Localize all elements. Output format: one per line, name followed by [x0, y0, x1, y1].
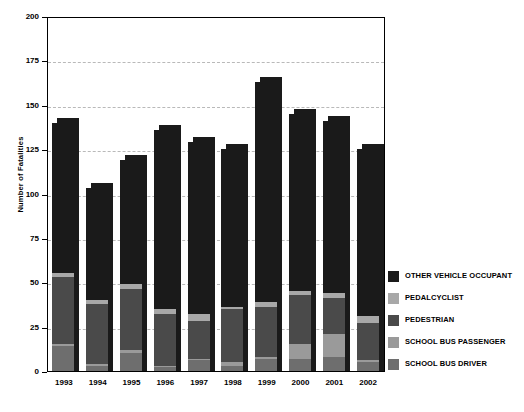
- legend-item: PEDALCYCLIST: [388, 293, 522, 304]
- bar-segment: [120, 160, 142, 284]
- legend-item: OTHER VEHICLE OCCUPANT: [388, 271, 522, 282]
- legend-label: SCHOOL BUS PASSENGER: [405, 337, 506, 347]
- legend-label: SCHOOL BUS DRIVER: [405, 359, 487, 369]
- bar-segment: [221, 366, 243, 371]
- legend-swatch: [388, 315, 399, 326]
- bar-group: [221, 18, 248, 371]
- bar-segment: [188, 321, 210, 358]
- bar-segment: [154, 130, 176, 309]
- bar-segment: [221, 309, 243, 362]
- bar-stack: [255, 82, 277, 371]
- bar-segment: [357, 323, 379, 360]
- bar-stack: [52, 123, 74, 371]
- bar-segment: [188, 142, 210, 314]
- bar-group: [323, 18, 350, 371]
- bar-segment: [120, 289, 142, 349]
- bar-segment: [289, 295, 311, 345]
- legend-swatch: [388, 271, 399, 282]
- legend-label: PEDESTRIAN: [405, 315, 454, 325]
- bar-segment: [154, 314, 176, 365]
- bar-group: [255, 18, 282, 371]
- bar-group: [86, 18, 113, 371]
- bar-segment: [255, 359, 277, 371]
- plot-area: [47, 17, 385, 372]
- bar-segment: [86, 188, 108, 300]
- legend-item: SCHOOL BUS DRIVER: [388, 359, 522, 370]
- bar-group: [154, 18, 181, 371]
- bar-segment: [357, 316, 379, 323]
- legend-swatch: [388, 293, 399, 304]
- legend-swatch: [388, 359, 399, 370]
- y-tick-label: 175: [13, 57, 39, 65]
- bar-segment: [289, 344, 311, 358]
- y-tick-label: 25: [13, 324, 39, 332]
- y-tick-label: 50: [13, 279, 39, 287]
- bar-group: [289, 18, 316, 371]
- y-tick-label: 100: [13, 191, 39, 199]
- bar-group: [357, 18, 384, 371]
- bar-segment: [154, 367, 176, 371]
- bar-segment: [323, 121, 345, 293]
- bar-stack: [323, 121, 345, 371]
- bar-group: [188, 18, 215, 371]
- bar-segment: [52, 346, 74, 371]
- legend-label: OTHER VEHICLE OCCUPANT: [405, 271, 512, 281]
- bar-segment: [86, 366, 108, 371]
- bar-segment: [323, 298, 345, 334]
- y-tick-label: 75: [13, 235, 39, 243]
- x-tick-label: 2002: [348, 378, 388, 387]
- bar-segment: [188, 314, 210, 321]
- stacked-bar-chart: Number of Fatalities 0255075100125150175…: [0, 0, 524, 412]
- bar-stack: [86, 188, 108, 371]
- y-tick-label: 0: [13, 368, 39, 376]
- bar-segment: [188, 360, 210, 371]
- bar-segment: [323, 334, 345, 357]
- bar-stack: [221, 149, 243, 371]
- bar-stack: [154, 130, 176, 371]
- y-tick-label: 125: [13, 146, 39, 154]
- bar-segment: [52, 277, 74, 344]
- bar-segment: [289, 114, 311, 292]
- bar-segment: [357, 362, 379, 371]
- bar-segment: [255, 82, 277, 302]
- bar-stack: [188, 142, 210, 371]
- legend-label: PEDALCYCLIST: [405, 293, 464, 303]
- bar-segment: [255, 307, 277, 357]
- y-tick-mark: [42, 372, 47, 373]
- bar-segment: [52, 123, 74, 274]
- bar-segment: [323, 357, 345, 371]
- chart-legend: OTHER VEHICLE OCCUPANTPEDALCYCLISTPEDEST…: [388, 271, 522, 381]
- bar-stack: [357, 149, 379, 371]
- bar-segment: [120, 353, 142, 371]
- bar-group: [120, 18, 147, 371]
- y-tick-label: 150: [13, 102, 39, 110]
- bar-segment: [86, 304, 108, 364]
- bar-stack: [120, 160, 142, 371]
- legend-item: PEDESTRIAN: [388, 315, 522, 326]
- bar-segment: [357, 149, 379, 316]
- bar-stack: [289, 114, 311, 371]
- bar-group: [52, 18, 79, 371]
- bar-segment: [289, 359, 311, 371]
- y-tick-label: 200: [13, 13, 39, 21]
- legend-item: SCHOOL BUS PASSENGER: [388, 337, 522, 348]
- legend-swatch: [388, 337, 399, 348]
- bar-segment: [221, 149, 243, 307]
